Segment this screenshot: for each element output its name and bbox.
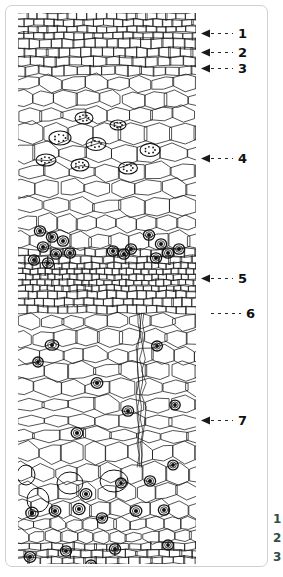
arrow-left-icon	[201, 154, 210, 163]
leader-dash	[211, 420, 233, 421]
callout-1[interactable]: 1	[201, 25, 247, 41]
callout-4[interactable]: 4	[201, 150, 247, 166]
callout-number: 4	[238, 152, 247, 165]
arrow-left-icon	[201, 416, 210, 425]
edge-legend-item: 1	[273, 510, 283, 529]
leader-dash	[211, 278, 233, 279]
leader-dash	[211, 52, 233, 53]
callout-number: 6	[246, 307, 255, 320]
callout-2[interactable]: 2	[201, 44, 247, 60]
arrow-left-icon	[201, 48, 210, 57]
callout-3[interactable]: 3	[201, 60, 247, 76]
micrograph-illustration	[18, 13, 196, 564]
callout-number: 1	[238, 27, 247, 40]
arrow-left-icon	[201, 29, 210, 38]
edge-legend-item: 2	[273, 529, 283, 548]
edge-legend-item: 3	[273, 548, 283, 567]
leader-dash	[211, 33, 233, 34]
arrow-left-icon	[201, 274, 210, 283]
callout-5[interactable]: 5	[201, 270, 247, 286]
leader-dash	[211, 313, 241, 314]
leader-dash	[211, 158, 233, 159]
callout-number: 3	[238, 62, 247, 75]
callout-7[interactable]: 7	[201, 412, 247, 428]
callout-number: 7	[238, 414, 247, 427]
cross-section-drawing	[18, 13, 196, 564]
arrow-left-icon	[201, 64, 210, 73]
callout-number: 2	[238, 46, 247, 59]
figure-root: 1 2 3 4 5	[0, 0, 283, 577]
callout-number: 5	[238, 272, 247, 285]
edge-legend-fragment: 1 2 3	[272, 510, 283, 572]
callout-6[interactable]: 6	[201, 305, 255, 321]
leader-dash	[211, 68, 233, 69]
